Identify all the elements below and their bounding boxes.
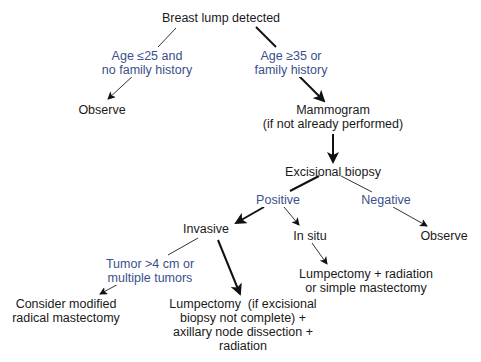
node-mammogram: Mammogram (if not already performed)	[263, 103, 403, 131]
edge-negative-to-observe	[393, 207, 427, 226]
condition-age-young: Age ≤25 and no family history	[100, 49, 194, 77]
breast-lump-flowchart: Breast lump detected Observe Mammogram (…	[0, 0, 481, 362]
edge-older-label-to-mammogram	[298, 75, 324, 101]
edge-invasive-to-lumpectomy	[218, 240, 240, 294]
node-breast-lump-detected: Breast lump detected	[162, 11, 280, 25]
condition-negative: Negative	[359, 193, 412, 207]
node-lumpectomy-invasive: Lumpectomy (if excisional biopsy not com…	[169, 297, 316, 353]
edge-insitu-to-lumpectomy-radiation	[312, 243, 327, 264]
node-invasive: Invasive	[183, 222, 229, 236]
node-in-situ: In situ	[293, 229, 326, 243]
condition-positive: Positive	[254, 193, 302, 207]
edge-positive-to-insitu	[284, 207, 299, 225]
edge-invasive-to-tumor-label	[168, 238, 198, 255]
edge-lump-to-young-label	[158, 28, 176, 47]
node-lumpectomy-in-situ: Lumpectomy + radiation or simple mastect…	[299, 267, 433, 295]
node-excisional-biopsy: Excisional biopsy	[285, 165, 381, 179]
node-consider-modified-radical-mastectomy: Consider modified radical mastectomy	[12, 297, 120, 325]
node-observe-negative: Observe	[420, 229, 467, 243]
edge-lump-to-older-label	[256, 27, 276, 47]
edge-positive-to-invasive	[236, 207, 264, 223]
edge-young-label-to-observe	[108, 74, 135, 99]
condition-age-older: Age ≥35 or family history	[253, 49, 330, 77]
condition-large-tumor: Tumor >4 cm or multiple tumors	[104, 257, 196, 285]
node-observe-young: Observe	[78, 103, 125, 117]
